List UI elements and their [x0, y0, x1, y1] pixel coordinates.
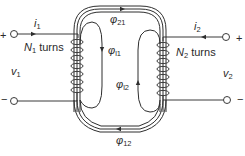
- phil2-arrow-icon: [136, 80, 140, 85]
- current-i1-label: i1: [34, 17, 41, 31]
- flux-phil2-label: φl2: [116, 78, 129, 92]
- left-plus-sign: +: [0, 29, 6, 41]
- phi21-arrow-icon: [120, 7, 125, 11]
- right-port: + i2 N2 turns v2 −: [163, 20, 243, 105]
- coupled-coils-diagram: + i1 N1 turns v1 − + i2 N2 turns v2 −: [0, 0, 245, 156]
- left-port: + i1 N1 turns v1 −: [0, 17, 78, 105]
- flux-phil1-label: φl1: [108, 44, 121, 58]
- phil1-arrow-icon: [100, 47, 104, 52]
- left-top-terminal: [11, 31, 18, 38]
- voltage-v2-label: v2: [223, 67, 233, 81]
- leakage-flux-l1: [80, 22, 104, 108]
- coil-n2-label: N2 turns: [176, 46, 216, 60]
- phi12-arrow-icon: [116, 127, 121, 131]
- flux-phi12-label: φ12: [116, 134, 132, 148]
- leakage-flux-l2: [136, 30, 160, 112]
- left-bottom-terminal: [11, 98, 18, 105]
- left-minus-sign: −: [1, 93, 7, 105]
- voltage-v1-label: v1: [11, 65, 21, 79]
- current-i2-arrow-icon: [201, 35, 206, 39]
- right-top-terminal: [223, 34, 230, 41]
- right-minus-sign: −: [237, 93, 243, 105]
- current-i1-arrow-icon: [31, 32, 36, 36]
- current-i2-label: i2: [194, 20, 201, 34]
- coil-n1-label: N1 turns: [24, 41, 64, 55]
- flux-phi21-label: φ21: [110, 13, 126, 27]
- right-bottom-terminal: [224, 97, 231, 104]
- mutual-flux-bottom: [74, 100, 166, 132]
- right-plus-sign: +: [236, 32, 242, 44]
